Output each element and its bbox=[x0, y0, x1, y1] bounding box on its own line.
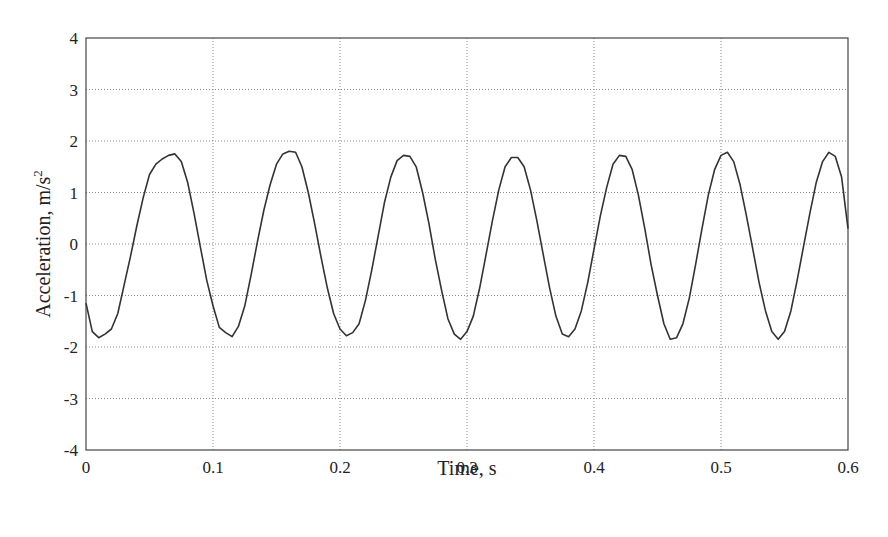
y-tick-label: -3 bbox=[64, 390, 78, 409]
y-axis-ticks: -4-3-2-101234 bbox=[64, 29, 79, 460]
x-tick-label: 0.1 bbox=[202, 458, 223, 477]
y-tick-label: -2 bbox=[64, 338, 78, 357]
y-tick-label: 4 bbox=[70, 29, 79, 48]
y-axis-label: Acceleration, m/s2 bbox=[30, 170, 54, 318]
y-tick-label: 1 bbox=[70, 184, 79, 203]
x-tick-label: 0 bbox=[82, 458, 91, 477]
x-axis-label: Time, s bbox=[437, 457, 497, 479]
x-tick-label: 0.2 bbox=[329, 458, 350, 477]
y-tick-label: 0 bbox=[70, 235, 79, 254]
y-tick-label: 3 bbox=[70, 81, 79, 100]
y-tick-label: -4 bbox=[64, 441, 79, 460]
y-tick-label: -1 bbox=[64, 287, 78, 306]
x-tick-label: 0.4 bbox=[583, 458, 605, 477]
x-tick-label: 0.6 bbox=[837, 458, 858, 477]
x-tick-label: 0.5 bbox=[710, 458, 731, 477]
y-tick-label: 2 bbox=[70, 132, 79, 151]
chart: 00.10.20.30.40.50.6 -4-3-2-101234 Time, … bbox=[0, 0, 888, 537]
